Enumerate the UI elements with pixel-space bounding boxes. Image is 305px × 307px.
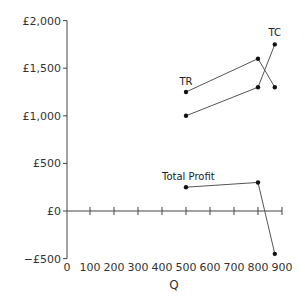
y-tick-label: £0 (47, 205, 61, 218)
x-tick-label: 100 (80, 261, 101, 274)
data-point (273, 42, 277, 46)
y-axis: −£500£0£500£1,000£1,500£2,000 (23, 15, 68, 266)
x-tick-label: 400 (152, 261, 173, 274)
data-point (273, 252, 277, 256)
data-point (256, 56, 260, 60)
data-point (184, 185, 188, 189)
series-label: Total Profit (161, 171, 215, 182)
series-line-tc (186, 44, 275, 115)
x-axis-label: Q (169, 278, 178, 292)
chart: −£500£0£500£1,000£1,500£2,000 0100200300… (0, 0, 305, 307)
x-tick-label: 800 (248, 261, 269, 274)
data-point (256, 180, 260, 184)
series-group: TRTCTotal Profit (161, 27, 281, 256)
y-tick-label: £2,000 (23, 15, 62, 28)
y-tick-label: £1,500 (23, 62, 62, 75)
x-axis: 0100200300400500600700800900 (64, 207, 293, 274)
series-label: TC (268, 27, 282, 38)
data-point (256, 85, 260, 89)
x-tick-label: 300 (128, 261, 149, 274)
y-tick-label: −£500 (24, 253, 61, 266)
data-point (184, 114, 188, 118)
x-tick-label: 900 (272, 261, 293, 274)
x-tick-label: 700 (224, 261, 245, 274)
x-tick-label: 0 (64, 261, 71, 274)
y-tick-label: £1,000 (23, 110, 62, 123)
x-tick-label: 200 (104, 261, 125, 274)
data-point (273, 85, 277, 89)
x-tick-label: 500 (176, 261, 197, 274)
series-line-total-profit (186, 182, 275, 253)
data-point (184, 90, 188, 94)
y-tick-label: £500 (33, 157, 61, 170)
series-label: TR (178, 76, 192, 87)
x-tick-label: 600 (200, 261, 221, 274)
series-line-tr (186, 59, 275, 92)
